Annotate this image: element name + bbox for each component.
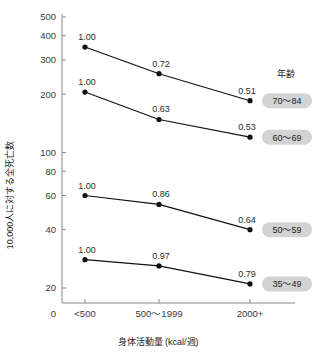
legend-badge-label: 35〜49	[272, 279, 301, 289]
y-tick-label: 100	[40, 147, 56, 158]
legend-badge-label: 70〜84	[272, 96, 301, 106]
chart-canvas: 204060801002003004005000 <500500〜1999200…	[0, 0, 317, 355]
series-line-50〜59	[85, 196, 250, 230]
data-point	[247, 98, 252, 103]
point-label: 0.72	[152, 59, 170, 69]
y-axis: 204060801002003004005000	[40, 11, 66, 319]
y-tick-label: 500	[40, 11, 56, 22]
data-point	[156, 71, 161, 76]
y-tick-label: 60	[45, 190, 56, 201]
point-label: 1.00	[78, 181, 96, 191]
y-tick-label: 300	[40, 54, 56, 65]
x-tick-label: 2000+	[237, 308, 264, 319]
y-tick-label: 400	[40, 30, 56, 41]
point-label: 0.51	[238, 86, 256, 96]
data-point	[156, 202, 161, 207]
legend: 年齢70〜8460〜6950〜5935〜49	[262, 68, 312, 291]
x-tick-label: 500〜1999	[136, 308, 183, 319]
legend-title: 年齢	[277, 68, 295, 79]
data-point	[156, 263, 161, 268]
data-point	[247, 227, 252, 232]
x-axis-title: 身体活動量 (kcal/週)	[118, 336, 199, 347]
data-point	[82, 89, 87, 94]
point-label: 0.86	[152, 189, 170, 199]
data-point	[156, 117, 161, 122]
point-label: 0.97	[152, 251, 170, 261]
series-line-35〜49	[85, 260, 250, 284]
y-tick-label: 200	[40, 89, 56, 100]
data-point	[82, 193, 87, 198]
series-line-70〜84	[85, 47, 250, 101]
x-axis: <500500〜19992000+	[62, 299, 295, 319]
data-point	[82, 257, 87, 262]
point-label: 1.00	[78, 77, 96, 87]
x-tick-label: <500	[74, 308, 95, 319]
legend-badge-label: 60〜69	[272, 133, 301, 143]
legend-badge-label: 50〜59	[272, 225, 301, 235]
origin-tick-label: 0	[51, 308, 56, 319]
point-label: 1.00	[78, 32, 96, 42]
mortality-physical-activity-chart: 204060801002003004005000 <500500〜1999200…	[0, 0, 317, 355]
y-tick-label: 80	[45, 166, 56, 177]
y-tick-label: 20	[45, 282, 56, 293]
point-label: 0.64	[238, 215, 256, 225]
data-point	[247, 281, 252, 286]
point-label: 0.79	[238, 269, 256, 279]
point-label: 1.00	[78, 245, 96, 255]
data-point	[247, 135, 252, 140]
point-label: 0.53	[238, 122, 256, 132]
data-point	[82, 44, 87, 49]
y-tick-label: 40	[45, 224, 56, 235]
y-axis-title: 10,000人に対する全死亡数	[4, 141, 15, 250]
series-container: 1.000.720.511.000.630.531.000.860.641.00…	[78, 32, 256, 286]
point-label: 0.63	[152, 104, 170, 114]
series-line-60〜69	[85, 92, 250, 137]
